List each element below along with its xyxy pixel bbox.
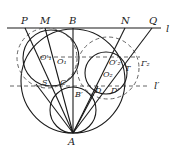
label-o2: O₂: [103, 70, 113, 79]
label-o1-prime: O′₁: [40, 53, 52, 62]
label-l: l: [166, 23, 169, 34]
label-b: B: [68, 15, 76, 26]
label-t: T: [125, 64, 131, 73]
label-o1: O₁: [57, 57, 67, 66]
label-c: C: [60, 78, 66, 87]
label-m: M: [39, 15, 51, 26]
label-o2-prime: O′₂: [109, 58, 121, 67]
label-n: N: [120, 15, 131, 26]
line-qa: [73, 28, 152, 133]
label-d-prime: D′: [110, 86, 119, 95]
label-s: S: [42, 78, 48, 87]
label-gamma2: Γ₂: [140, 59, 150, 68]
label-b-prime: B′: [74, 90, 83, 99]
label-d: D: [94, 86, 102, 95]
label-p: P: [20, 15, 28, 26]
label-a: A: [67, 136, 75, 147]
label-q: Q: [149, 15, 157, 26]
label-l-prime: l′: [154, 80, 160, 91]
geometry-diagram: P M B N Q l l′ Γ₂ T O′₁ O₁ O′₂ O₂ S C B′…: [0, 0, 181, 155]
